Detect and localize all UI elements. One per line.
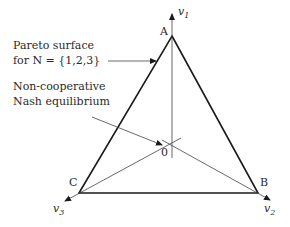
- origin-label: 0: [161, 146, 168, 160]
- nash-annotation-line2: Nash equilibrium: [13, 95, 110, 109]
- axis-label-v3-sub: 3: [59, 208, 64, 217]
- axis-label-v2-sub: 2: [270, 208, 275, 217]
- nash-pointer-arrow: [92, 117, 162, 145]
- pareto-annotation-line1: Pareto surface: [13, 39, 94, 53]
- axis-label-v1: v1: [178, 5, 189, 20]
- vertex-label-b: B: [260, 176, 268, 190]
- pareto-diagram: [0, 0, 290, 227]
- axis-label-v3: v3: [53, 202, 64, 217]
- pareto-triangle: [79, 36, 258, 193]
- axis-label-v1-sub: 1: [184, 11, 189, 20]
- vertex-label-c: C: [69, 176, 77, 190]
- axis-v2: [162, 140, 270, 200]
- axis-label-v2: v2: [264, 202, 275, 217]
- nash-annotation-line1: Non-cooperative: [13, 80, 106, 94]
- pareto-annotation-line2: for N = {1,2,3}: [13, 54, 100, 68]
- vertex-label-a: A: [160, 25, 168, 39]
